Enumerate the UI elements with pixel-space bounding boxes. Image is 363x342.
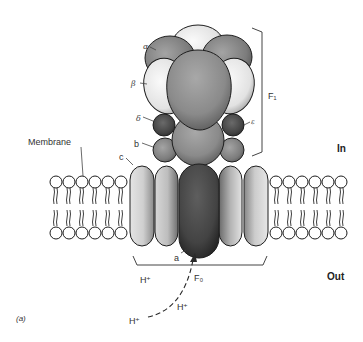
- subunit-c-outer-right: [244, 166, 268, 246]
- lipid-heads-right: [270, 176, 347, 239]
- subunit-epsilon: [222, 114, 244, 136]
- label-out: Out: [327, 271, 345, 282]
- subunit-c-outer-left: [130, 166, 154, 246]
- lipid-bilayer-left: [50, 176, 127, 239]
- label-f0: F₀: [194, 273, 203, 283]
- label-beta: β: [130, 79, 136, 88]
- label-c: c: [119, 152, 124, 162]
- atp-synthase-diagram: Membrane α β δ ε b c a F₁ F₀ In Out H⁺ H…: [0, 0, 363, 342]
- subunit-c-inner-left: [155, 166, 178, 246]
- label-in: In: [337, 143, 346, 154]
- lipid-bilayer-right: [270, 176, 347, 239]
- subunit-delta: [153, 114, 175, 136]
- label-delta: δ: [136, 114, 141, 123]
- panel-label: (a): [16, 314, 26, 323]
- label-f1: F₁: [268, 91, 277, 101]
- lipid-heads-left: [50, 176, 127, 239]
- label-alpha: α: [143, 42, 149, 51]
- label-epsilon: ε: [251, 118, 255, 126]
- label-proton-1: H⁺: [140, 275, 152, 285]
- label-proton-3: H⁺: [129, 316, 141, 326]
- lipid-tails-left: [54, 188, 123, 226]
- label-b: b: [134, 139, 139, 149]
- f0-sector: [130, 164, 268, 258]
- proton-path-arrow: [148, 253, 197, 317]
- label-membrane: Membrane: [28, 137, 71, 147]
- label-a: a: [174, 253, 179, 263]
- subunit-a: [179, 164, 219, 258]
- subunit-front-central: [167, 50, 231, 130]
- subunit-c-inner-right: [219, 166, 242, 246]
- lipid-tails-right: [275, 188, 344, 226]
- label-proton-2: H⁺: [177, 302, 189, 312]
